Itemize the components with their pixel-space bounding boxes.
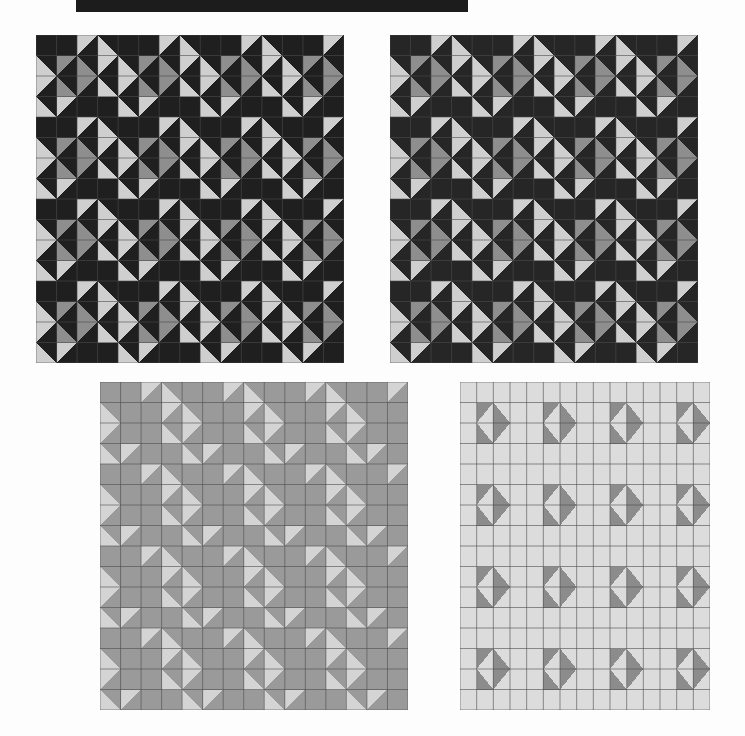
quilt-canvas xyxy=(100,382,408,710)
quilt-canvas xyxy=(36,35,344,363)
quilt-panel-1[interactable] xyxy=(36,35,344,363)
quilt-canvas xyxy=(460,382,710,710)
page-root: Quilt Pattern Variations xyxy=(0,0,745,736)
quilt-panel-3[interactable] xyxy=(100,382,408,710)
quilt-panel-2[interactable] xyxy=(390,35,698,363)
quilt-canvas xyxy=(390,35,698,363)
quilt-panel-4[interactable] xyxy=(460,382,710,710)
top-banner xyxy=(76,0,468,12)
